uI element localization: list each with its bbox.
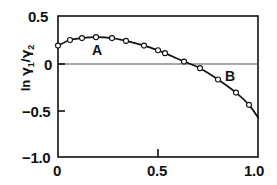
region-label-a: A (92, 42, 102, 58)
y-axis-title: ln γ1/γ2 (18, 45, 36, 92)
data-point (110, 36, 115, 41)
y-axis-title-gamma-2: γ (18, 50, 33, 59)
data-point (124, 38, 129, 43)
y-axis-title-wrapper: ln γ1/γ2 (17, 13, 37, 123)
x-tick-label-0-5: 0.5 (147, 162, 167, 179)
x-tick-label-0: 0 (53, 162, 61, 179)
data-point (182, 59, 187, 64)
y-axis-title-sub-1: 1 (26, 62, 36, 67)
data-point (94, 35, 99, 40)
region-label-b: B (225, 68, 235, 84)
data-point (156, 48, 161, 53)
data-point (142, 43, 147, 48)
data-point (198, 66, 203, 71)
y-axis-title-sub-2: 2 (26, 45, 36, 50)
data-point-markers (56, 35, 252, 108)
y-axis-title-separator: / (18, 59, 33, 63)
y-tick-label-minus-1-0: −1.0 (22, 149, 50, 166)
y-axis-title-gamma-1: γ (18, 67, 33, 76)
data-point (80, 36, 85, 41)
data-point (68, 37, 73, 42)
data-point (56, 43, 61, 48)
y-tick-marks (58, 64, 65, 111)
data-point (216, 77, 221, 82)
chart-figure: 0.5 0 −0.5 −1.0 0 0.5 1.0 ln γ1/γ2 A B (0, 0, 277, 185)
data-point (234, 90, 239, 95)
y-tick-label-0: 0 (44, 56, 52, 73)
x-tick-label-1-0: 1.0 (244, 162, 264, 179)
y-axis-title-prefix: ln (18, 76, 33, 91)
data-point (247, 102, 252, 107)
data-point (163, 51, 168, 56)
